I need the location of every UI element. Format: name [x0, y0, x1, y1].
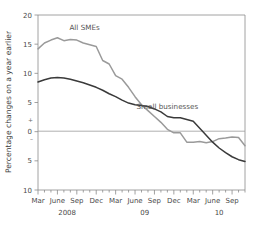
x-axis-group: MarJuneSepDecMarJuneSepDecMarJuneSep — [31, 190, 245, 205]
x-tick-label: Sep — [148, 197, 162, 205]
x-tick-label: Mar — [187, 197, 200, 205]
y-tick-label: 5 — [28, 99, 32, 107]
chart-svg: 20151050510 + – MarJuneSepDecMarJuneSepD… — [0, 0, 256, 234]
series-annotations: All SMEsSmall businesses — [69, 23, 198, 111]
year-label: 10 — [215, 209, 224, 217]
y-axis-minus-sign: – — [30, 135, 33, 142]
series-line — [38, 77, 245, 161]
x-tick-label: June — [49, 197, 65, 205]
y-tick-label: 20 — [23, 12, 32, 20]
series-label: Small businesses — [137, 102, 199, 111]
year-label: 09 — [140, 209, 149, 217]
year-labels: 20080910 — [58, 209, 223, 217]
y-tick-label: 10 — [23, 70, 32, 78]
x-tick-label: Sep — [70, 197, 84, 205]
y-axis-group: 20151050510 — [23, 12, 38, 195]
series-label: All SMEs — [69, 23, 100, 32]
y-tick-label: 15 — [23, 41, 32, 49]
y-tick-label: 5 — [28, 157, 32, 165]
y-axis-title: Percentage changes on a year earlier — [4, 30, 13, 173]
y-tick-label: 10 — [23, 187, 32, 195]
x-tick-label: June — [126, 197, 142, 205]
chart-container: 20151050510 + – MarJuneSepDecMarJuneSepD… — [0, 0, 256, 234]
series-line — [38, 38, 245, 146]
x-tick-label: Sep — [225, 197, 239, 205]
y-axis-plus-sign: + — [28, 116, 33, 123]
x-tick-label: Mar — [31, 197, 44, 205]
series-group — [38, 38, 245, 162]
year-label: 2008 — [58, 209, 76, 217]
x-tick-label: June — [204, 197, 220, 205]
x-tick-label: Mar — [109, 197, 122, 205]
x-tick-label: Dec — [167, 197, 181, 205]
x-tick-label: Dec — [89, 197, 103, 205]
